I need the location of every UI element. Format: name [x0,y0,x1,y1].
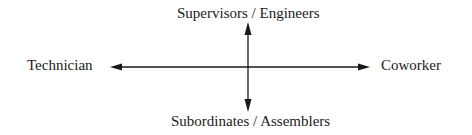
left-arrowhead-icon [110,64,122,71]
label-left: Technician [27,58,93,73]
down-arrowhead-icon [245,99,252,112]
orientation-diagram: Supervisors / Engineers Technician Cowor… [0,0,472,135]
label-right: Coworker [381,58,441,73]
label-bottom: Subordinates / Assemblers [171,114,330,129]
right-arrowhead-icon [358,64,370,71]
label-top: Supervisors / Engineers [177,6,319,21]
up-arrowhead-icon [245,22,252,35]
horizontal-axis [110,64,370,71]
